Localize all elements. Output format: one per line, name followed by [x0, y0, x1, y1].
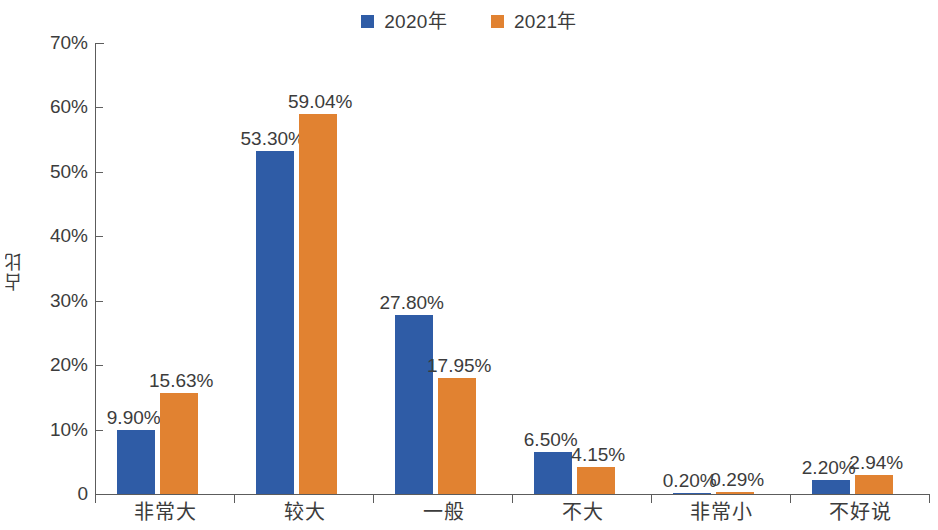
bar-value-label: 0.29% [710, 470, 764, 489]
x-tick-label-非常小: 非常小 [652, 500, 792, 524]
bar-2020年-较大[interactable]: 53.30% [256, 151, 294, 494]
legend-swatch-icon-2020 [361, 15, 374, 28]
bar-2020年-一般[interactable]: 27.80% [395, 315, 433, 494]
legend-label-2020: 2020年 [384, 12, 447, 31]
chart-legend: 2020年 2021年 [0, 8, 938, 34]
bar-group: 6.50%4.15% [513, 43, 652, 494]
bar-group: 0.20%0.29% [652, 43, 791, 494]
y-tick-label: 60% [32, 97, 88, 116]
y-tick-label: 10% [32, 420, 88, 439]
x-tick-label-不好说: 不好说 [791, 500, 931, 524]
y-tick-label: 50% [32, 162, 88, 181]
x-tick-label-较大: 较大 [235, 500, 375, 524]
y-axis-label: 占比 [2, 238, 28, 304]
plot-area: 9.90%15.63%53.30%59.04%27.80%17.95%6.50%… [96, 43, 930, 494]
bar-value-label: 27.80% [379, 293, 443, 312]
x-tick-label-一般: 一般 [374, 500, 514, 524]
bar-value-label: 6.50% [524, 430, 578, 449]
bar-2021年-较大[interactable]: 59.04% [299, 114, 337, 494]
legend-item-2021[interactable]: 2021年 [491, 12, 577, 31]
bar-2021年-不大[interactable]: 4.15% [577, 467, 615, 494]
bar-value-label: 53.30% [240, 129, 304, 148]
bar-value-label: 15.63% [149, 371, 213, 390]
bar-chart: 2020年 2021年 占比 70%60%50%40%30%20%10%0 9.… [0, 0, 938, 530]
bar-2021年-一般[interactable]: 17.95% [438, 378, 476, 494]
bar-value-label: 2.20% [802, 458, 856, 477]
x-tick-label-非常大: 非常大 [96, 500, 236, 524]
bar-value-label: 59.04% [288, 92, 352, 111]
bar-value-label: 17.95% [427, 356, 491, 375]
bar-group: 27.80%17.95% [374, 43, 513, 494]
y-tick-label: 20% [32, 355, 88, 374]
bar-2020年-不大[interactable]: 6.50% [534, 452, 572, 494]
legend-swatch-icon-2021 [491, 15, 504, 28]
legend-item-2020[interactable]: 2020年 [361, 12, 447, 31]
bar-value-label: 9.90% [107, 408, 161, 427]
y-axis-ticks: 70%60%50%40%30%20%10%0 [30, 0, 88, 530]
bar-group: 2.20%2.94% [791, 43, 930, 494]
x-axis-labels: 非常大较大一般不大非常小不好说 [96, 500, 930, 530]
bar-value-label: 4.15% [571, 445, 625, 464]
bar-group: 53.30%59.04% [235, 43, 374, 494]
bar-value-label: 2.94% [849, 453, 903, 472]
bar-2020年-非常大[interactable]: 9.90% [117, 430, 155, 494]
bar-value-label: 0.20% [663, 471, 717, 490]
bar-2021年-不好说[interactable]: 2.94% [855, 475, 893, 494]
legend-label-2021: 2021年 [514, 12, 577, 31]
bar-2020年-不好说[interactable]: 2.20% [812, 480, 850, 494]
x-tick-label-不大: 不大 [513, 500, 653, 524]
y-tick-label: 30% [32, 291, 88, 310]
bar-group: 9.90%15.63% [96, 43, 235, 494]
y-tick-label: 0 [32, 484, 88, 503]
y-tick-label: 40% [32, 226, 88, 245]
y-tick-label: 70% [32, 33, 88, 52]
bar-2021年-非常大[interactable]: 15.63% [160, 393, 198, 494]
